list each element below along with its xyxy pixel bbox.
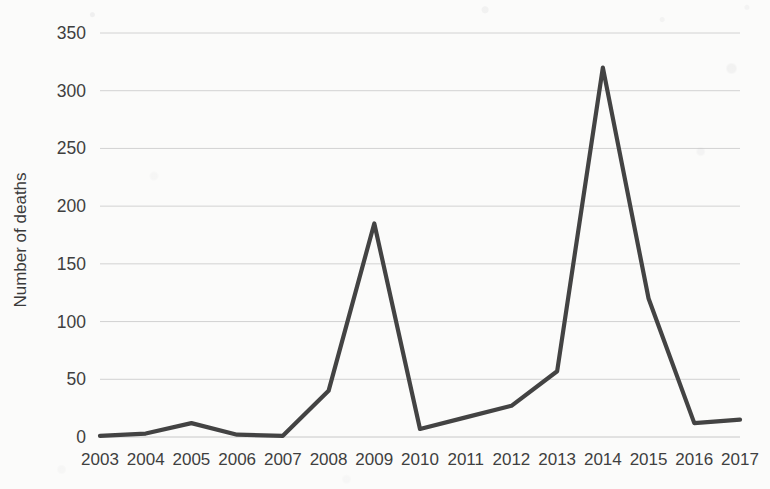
x-tick-label: 2010 xyxy=(401,450,439,469)
x-tick-label: 2008 xyxy=(310,450,348,469)
data-series-line xyxy=(100,68,740,436)
x-tick-label: 2006 xyxy=(218,450,256,469)
chart-canvas: 350 300 250 200 150 100 50 0 Number of d… xyxy=(0,0,770,489)
y-axis-tick-labels: 350 300 250 200 150 100 50 0 xyxy=(57,23,86,447)
y-axis-title: Number of deaths xyxy=(11,172,30,307)
gridlines xyxy=(100,33,740,437)
x-tick-label: 2014 xyxy=(584,450,622,469)
x-tick-label: 2012 xyxy=(493,450,531,469)
y-tick-label: 100 xyxy=(57,312,86,332)
line-chart: 350 300 250 200 150 100 50 0 Number of d… xyxy=(0,0,770,489)
x-tick-label: 2004 xyxy=(127,450,165,469)
x-tick-label: 2016 xyxy=(675,450,713,469)
x-tick-label: 2007 xyxy=(264,450,302,469)
x-tick-label: 2017 xyxy=(721,450,759,469)
y-tick-label: 50 xyxy=(67,369,87,389)
x-tick-label: 2003 xyxy=(81,450,119,469)
x-axis-tick-labels: 2003 2004 2005 2006 2007 2008 2009 2010 … xyxy=(81,450,759,469)
x-tick-label: 2011 xyxy=(447,450,484,469)
y-tick-label: 0 xyxy=(76,427,86,447)
x-tick-label: 2005 xyxy=(173,450,211,469)
y-tick-label: 300 xyxy=(57,81,86,101)
x-tick-label: 2013 xyxy=(538,450,576,469)
y-tick-label: 150 xyxy=(57,254,86,274)
x-tick-label: 2009 xyxy=(355,450,393,469)
y-tick-label: 350 xyxy=(57,23,86,43)
y-tick-label: 200 xyxy=(57,196,86,216)
x-tick-label: 2015 xyxy=(630,450,668,469)
y-tick-label: 250 xyxy=(57,138,86,158)
